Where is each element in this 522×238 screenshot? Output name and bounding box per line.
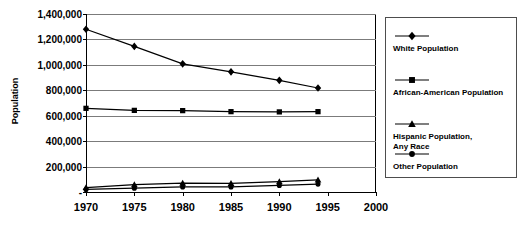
x-tick-mark — [376, 192, 377, 196]
x-tick-label: 1980 — [170, 201, 194, 213]
legend-marker-square-icon — [393, 74, 431, 86]
chart-legend: White PopulationAfrican-American Populat… — [385, 17, 517, 178]
x-tick-mark — [86, 192, 87, 196]
data-point-diamond — [131, 43, 137, 51]
data-point-circle — [83, 187, 88, 192]
legend-marker-triangle-icon — [393, 118, 431, 130]
x-tick-label: 1970 — [74, 201, 98, 213]
legend-label: African-American Population — [393, 88, 512, 98]
series-layer — [86, 14, 376, 192]
data-point-square — [132, 108, 137, 113]
series-square — [83, 106, 320, 115]
legend-label: Other Population — [393, 162, 512, 172]
data-point-circle — [277, 183, 282, 188]
data-point-circle — [132, 186, 137, 191]
x-tick-mark — [328, 192, 329, 196]
plot-area: -200,000400,000600,000800,0001,000,0001,… — [86, 14, 376, 192]
data-point-diamond — [228, 68, 234, 76]
x-tick-label: 1985 — [219, 201, 243, 213]
data-point-circle — [315, 182, 320, 187]
x-tick-mark — [279, 192, 280, 196]
x-tick-label: 2000 — [364, 201, 388, 213]
data-point-diamond — [83, 25, 89, 33]
data-point-circle — [409, 151, 415, 157]
legend-entry[interactable]: White Population — [393, 30, 512, 54]
data-point-square — [228, 109, 233, 114]
data-point-circle — [180, 184, 185, 189]
x-tick-mark — [183, 192, 184, 196]
series-line — [86, 29, 318, 88]
x-tick-mark — [134, 192, 135, 196]
data-point-diamond — [276, 77, 282, 85]
x-tick-mark — [231, 192, 232, 196]
data-point-square — [180, 108, 185, 113]
x-tick-label: 1990 — [267, 201, 291, 213]
data-point-square — [83, 106, 88, 111]
y-tick-label: 400,000 — [46, 136, 82, 147]
x-tick-label: 1995 — [315, 201, 339, 213]
legend-entry[interactable]: Hispanic Population, Any Race — [393, 118, 512, 152]
data-point-circle — [228, 184, 233, 189]
chart-title — [86, 0, 376, 1]
data-point-diamond — [315, 84, 321, 92]
y-tick-label: 1,400,000 — [38, 9, 83, 20]
legend-marker-circle-icon — [393, 148, 431, 160]
legend-marker-diamond-icon — [393, 30, 431, 42]
y-tick-label: 600,000 — [46, 110, 82, 121]
data-point-diamond — [179, 60, 185, 68]
data-point-square — [409, 77, 415, 83]
y-tick-label: - — [79, 187, 82, 198]
series-line — [86, 108, 318, 112]
legend-entry[interactable]: African-American Population — [393, 74, 512, 98]
x-tick-label: 1975 — [122, 201, 146, 213]
chart-figure: Population -200,000400,000600,000800,000… — [0, 0, 522, 238]
legend-label: White Population — [393, 44, 512, 54]
series-diamond — [83, 25, 321, 91]
data-point-square — [277, 109, 282, 114]
y-tick-label: 200,000 — [46, 161, 82, 172]
y-tick-label: 1,200,000 — [38, 34, 83, 45]
data-point-square — [315, 109, 320, 114]
data-point-diamond — [408, 32, 415, 41]
y-axis-title: Population — [10, 56, 20, 146]
y-tick-label: 800,000 — [46, 85, 82, 96]
legend-entry[interactable]: Other Population — [393, 148, 512, 172]
y-tick-label: 1,000,000 — [38, 59, 83, 70]
